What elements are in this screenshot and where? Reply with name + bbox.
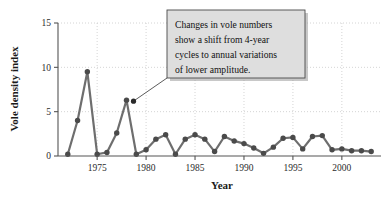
x-axis-title: Year [211, 179, 233, 191]
data-point [349, 148, 354, 153]
data-point [85, 69, 90, 74]
data-point [339, 146, 344, 151]
y-tick-label-5: 5 [46, 107, 51, 117]
annotation-line-2: show a shift from 4-year [175, 34, 270, 45]
annotation-line-1: Changes in vole numbers [175, 19, 273, 30]
x-tick-label-2000: 2000 [332, 163, 351, 173]
data-point [241, 141, 246, 146]
x-tick-label-1980: 1980 [137, 163, 156, 173]
data-point [163, 132, 168, 137]
data-point [212, 149, 217, 154]
data-point [75, 118, 80, 123]
data-point [320, 133, 325, 138]
data-point [222, 134, 227, 139]
data-point [290, 135, 295, 140]
y-tick-label-0: 0 [46, 151, 51, 161]
annotation-line-3: cycles to annual variations [175, 49, 277, 60]
data-point [271, 144, 276, 149]
data-point [359, 148, 364, 153]
data-point [114, 130, 119, 135]
chart-svg: 051015 197519801985199019952000 Vole den… [0, 0, 390, 198]
data-point [202, 136, 207, 141]
y-tick-label-15: 15 [42, 18, 52, 28]
data-point [104, 150, 109, 155]
data-point [231, 138, 236, 143]
annotation-anchor-dot [131, 99, 136, 104]
data-point [300, 146, 305, 151]
vole-density-chart: 051015 197519801985199019952000 Vole den… [0, 0, 390, 198]
annotation-line-4: of lower amplitude. [175, 64, 250, 75]
data-point [124, 97, 129, 102]
data-point [153, 136, 158, 141]
x-tick-label-1985: 1985 [186, 163, 205, 173]
x-tick-label-1995: 1995 [283, 163, 302, 173]
data-point [143, 147, 148, 152]
x-tick-label-1975: 1975 [88, 163, 107, 173]
data-point [192, 132, 197, 137]
data-point [261, 151, 266, 156]
data-point [369, 149, 374, 154]
data-point [310, 134, 315, 139]
x-tick-label-1990: 1990 [234, 163, 253, 173]
y-axis-title: Vole density index [8, 46, 20, 132]
data-point [329, 147, 334, 152]
data-point [251, 145, 256, 150]
data-point [280, 136, 285, 141]
data-point [183, 136, 188, 141]
y-tick-label-10: 10 [42, 63, 52, 73]
